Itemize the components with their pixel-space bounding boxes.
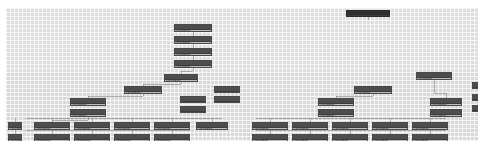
node-label: Development — [115, 140, 149, 141]
canvas-viewport-shade — [6, 8, 478, 72]
node-label: Development — [155, 140, 189, 141]
chart-node[interactable]: Development — [332, 134, 368, 141]
chart-node[interactable]: Development — [252, 122, 288, 130]
chart-node[interactable]: Development — [292, 122, 328, 130]
chart-node[interactable]: Development — [174, 60, 212, 68]
chart-node[interactable]: Development — [74, 134, 110, 141]
chart-node[interactable]: Development — [196, 122, 228, 130]
chart-node[interactable]: Development — [354, 86, 392, 94]
node-label: Activity — [215, 92, 239, 93]
chart-node[interactable]: Development — [174, 24, 212, 32]
node-label: Development — [373, 140, 407, 141]
node-label: Development — [75, 128, 109, 130]
chart-node[interactable]: Development — [114, 122, 150, 130]
chart-node[interactable]: Development — [430, 109, 462, 117]
chart-node[interactable]: Dev — [472, 105, 478, 112]
node-label: Development — [35, 140, 69, 141]
chart-node[interactable]: Development — [164, 74, 198, 82]
node-label: Development — [175, 30, 211, 32]
node-label: Dev — [473, 111, 478, 112]
node-label: Development — [175, 66, 211, 68]
chart-node[interactable]: Development — [412, 122, 448, 130]
node-label: Development — [319, 115, 353, 117]
chart-node[interactable]: Development — [332, 122, 368, 130]
node-label: Development — [417, 78, 451, 80]
chart-node[interactable]: Activity — [180, 96, 206, 103]
node-label: Development — [175, 54, 211, 56]
node-label: Dev — [473, 100, 478, 101]
chart-node[interactable]: Development — [252, 134, 288, 141]
node-label: Development — [333, 128, 367, 130]
node-label: Development — [431, 104, 461, 106]
chart-node[interactable]: Development — [70, 109, 106, 117]
node-label: Development — [293, 140, 327, 141]
chart-node[interactable]: Development — [412, 134, 448, 141]
node-label: Dev — [473, 88, 478, 89]
node-label: Development — [413, 128, 447, 130]
chart-node[interactable]: Development — [34, 134, 70, 141]
chart-node[interactable]: Development — [114, 134, 150, 141]
chart-node[interactable]: Development — [74, 122, 110, 130]
node-label: Development — [71, 115, 105, 117]
node-label: Development — [155, 128, 189, 130]
node-label: Development — [253, 128, 287, 130]
chart-node[interactable]: Development — [318, 109, 354, 117]
node-label: Development — [373, 128, 407, 130]
node-label: Development — [319, 104, 353, 106]
node-label: Development — [175, 42, 211, 44]
node-label: Development — [253, 140, 287, 141]
chart-node[interactable]: Development — [70, 98, 106, 106]
root-node[interactable]: Development — [346, 10, 390, 17]
node-label: Activity — [215, 102, 239, 103]
diagram-canvas[interactable]: DevelopmentDevelopmentDevelopmentDevelop… — [6, 8, 478, 141]
chart-node[interactable]: Development — [372, 134, 408, 141]
chart-node[interactable]: Development — [174, 36, 212, 44]
node-label: Development — [197, 128, 227, 130]
chart-node[interactable]: Development — [292, 134, 328, 141]
node-label: Development — [431, 115, 461, 117]
chart-node[interactable]: Development — [174, 48, 212, 56]
chart-node[interactable]: Dev — [472, 94, 478, 101]
node-label: Development — [333, 140, 367, 141]
chart-node[interactable]: Development — [8, 134, 22, 141]
node-label: Development — [347, 16, 389, 17]
node-label: Activity — [181, 102, 205, 103]
node-label: Development — [165, 80, 197, 82]
org-chart-app: DevelopmentDevelopmentDevelopmentDevelop… — [0, 0, 484, 150]
node-label: Development — [9, 128, 21, 130]
node-label: Development — [35, 128, 69, 130]
node-label: Development — [293, 128, 327, 130]
chart-node[interactable]: Activity — [214, 96, 240, 103]
chart-node[interactable]: Development — [8, 122, 22, 130]
node-label: Development — [71, 104, 105, 106]
chart-node[interactable]: Development — [430, 98, 462, 106]
chart-node[interactable]: Activity — [214, 86, 240, 93]
chart-node[interactable]: Development — [154, 122, 190, 130]
chart-node[interactable]: Activity — [180, 106, 206, 113]
node-label: Development — [115, 128, 149, 130]
node-label: Development — [413, 140, 447, 141]
chart-node[interactable]: Development — [416, 72, 452, 80]
chart-node[interactable]: Dev — [472, 82, 478, 89]
chart-node[interactable]: Development — [372, 122, 408, 130]
chart-node[interactable]: Development — [34, 122, 70, 130]
node-label: Development — [355, 92, 391, 94]
chart-node[interactable]: Development — [318, 98, 354, 106]
node-label: Development — [125, 92, 161, 94]
node-label: Development — [75, 140, 109, 141]
chart-node[interactable]: Development — [124, 86, 162, 94]
chart-node[interactable]: Development — [154, 134, 190, 141]
node-label: Development — [9, 140, 21, 141]
node-label: Activity — [181, 112, 205, 113]
